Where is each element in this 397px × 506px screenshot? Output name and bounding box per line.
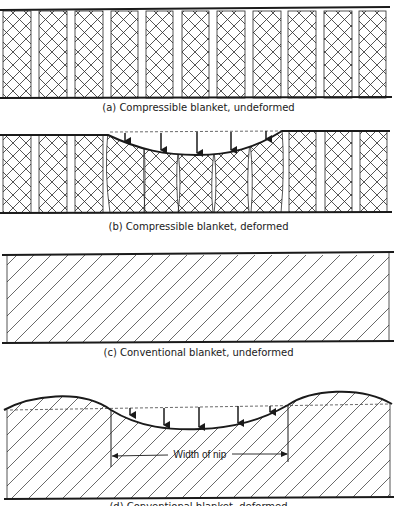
caption-panel-b: (b) Compressible blanket, deformed <box>0 221 397 232</box>
panel-b-compressible-deformed <box>0 128 392 213</box>
caption-panel-c: (c) Conventional blanket, undeformed <box>0 347 397 358</box>
crosshatch-blocks <box>3 128 387 213</box>
caption-panel-d: (d) Conventional blanket, deformed <box>0 501 397 506</box>
top-surface-line <box>2 252 394 255</box>
top-surface-line <box>0 7 390 10</box>
diagonal-hatch-body <box>7 380 390 500</box>
bottom-surface-line <box>0 212 392 213</box>
diagonal-hatch-body <box>7 255 389 342</box>
panel-a-compressible-undeformed <box>0 7 392 98</box>
bottom-surface-line <box>0 97 392 98</box>
nip-width-label: Width of nip <box>174 449 227 460</box>
caption-panel-a: (a) Compressible blanket, undeformed <box>0 102 397 113</box>
panel-d-conventional-deformed: Width of nip <box>4 380 394 500</box>
blanket-deformation-figure: Width of nip <box>0 0 397 506</box>
panel-c-conventional-undeformed <box>2 252 394 343</box>
crosshatch-blocks <box>3 11 386 98</box>
reference-dashed-line <box>110 131 282 132</box>
